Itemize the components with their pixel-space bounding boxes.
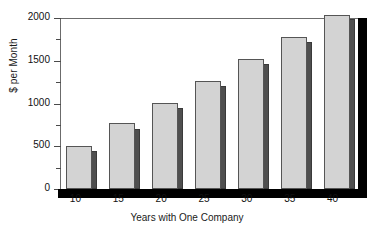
bar-front bbox=[109, 123, 135, 189]
bar-chart: $ per Month Years with One Company 05001… bbox=[0, 0, 374, 235]
bar-group bbox=[195, 18, 243, 189]
x-axis-title: Years with One Company bbox=[0, 212, 374, 223]
y-tick-label: 2000 bbox=[10, 11, 50, 22]
y-tick-label: 0 bbox=[10, 182, 50, 193]
y-tick-minor bbox=[56, 125, 61, 126]
bar-group bbox=[281, 18, 329, 189]
y-tick-major bbox=[54, 104, 61, 105]
axis-right-bar bbox=[358, 18, 367, 198]
y-tick-major bbox=[54, 18, 61, 19]
bar-front bbox=[195, 81, 221, 189]
y-tick-minor bbox=[56, 39, 61, 40]
y-tick-label: 1500 bbox=[10, 54, 50, 65]
x-tick-label: 40 bbox=[313, 193, 353, 204]
x-tick-label: 25 bbox=[184, 193, 224, 204]
bar-group bbox=[109, 18, 157, 189]
bar-group bbox=[66, 18, 114, 189]
x-tick-label: 20 bbox=[141, 193, 181, 204]
y-tick-minor bbox=[56, 168, 61, 169]
plot-area bbox=[60, 18, 360, 189]
bar-front bbox=[152, 103, 178, 189]
y-tick-label: 500 bbox=[10, 139, 50, 150]
y-tick-minor bbox=[56, 82, 61, 83]
x-tick-label: 15 bbox=[98, 193, 138, 204]
bar-front bbox=[66, 146, 92, 189]
bar-group bbox=[152, 18, 200, 189]
bar-group bbox=[238, 18, 286, 189]
x-tick-label: 10 bbox=[55, 193, 95, 204]
bar-front bbox=[238, 59, 264, 189]
y-tick-label: 1000 bbox=[10, 97, 50, 108]
y-tick-major bbox=[54, 146, 61, 147]
x-tick-label: 30 bbox=[227, 193, 267, 204]
x-tick-label: 35 bbox=[270, 193, 310, 204]
y-axis-title: $ per Month bbox=[8, 6, 19, 126]
bar-front bbox=[281, 37, 307, 189]
y-tick-major bbox=[54, 61, 61, 62]
bar-front bbox=[324, 15, 350, 189]
